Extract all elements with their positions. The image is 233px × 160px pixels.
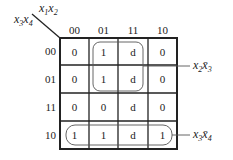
kmap-cell: 1 — [60, 121, 89, 149]
kmap-cell: 1 — [89, 65, 118, 93]
kmap-cell: 0 — [148, 93, 177, 121]
kmap-cell: 1 — [89, 38, 118, 66]
col-var-label: x1x2 — [39, 1, 58, 17]
row-var-label: x3x4 — [14, 12, 33, 28]
row-header: 10 — [34, 129, 56, 141]
row-header: 11 — [34, 101, 56, 113]
kmap-cell: 1 — [89, 121, 118, 149]
kmap-cell: 0 — [89, 93, 118, 121]
group-label-x2-x3bar: x2x̄3 — [193, 58, 212, 74]
kmap-cell: 1 — [148, 121, 177, 149]
row-header: 01 — [34, 73, 56, 85]
col-header: 11 — [118, 24, 148, 36]
col-header: 01 — [89, 24, 118, 36]
col-header: 00 — [60, 24, 89, 36]
kmap-cell: 0 — [148, 65, 177, 93]
kmap-cell: d — [118, 93, 148, 121]
row-header: 00 — [34, 45, 56, 57]
group-label-x3-x4bar: x3x̄4 — [193, 127, 212, 143]
kmap-cell: 0 — [60, 65, 89, 93]
kmap-cell: d — [118, 38, 148, 66]
kmap-cell: 0 — [148, 38, 177, 66]
kmap-cell: 0 — [60, 93, 89, 121]
kmap-cell: d — [118, 121, 148, 149]
col-header: 10 — [148, 24, 177, 36]
kmap-cell: d — [118, 65, 148, 93]
kmap-cell: 0 — [60, 38, 89, 66]
